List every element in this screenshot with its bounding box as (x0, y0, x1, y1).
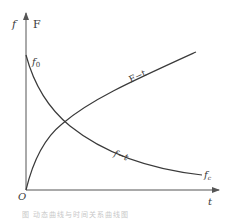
fc-label: fc (203, 169, 212, 181)
curve-F-t (26, 52, 196, 190)
origin-label: O (18, 191, 26, 202)
x-axis-label-t: t (208, 196, 213, 207)
curve-F-t-label: F−t (127, 68, 147, 85)
chart: f F f0 fc O t F−t f−t (0, 0, 226, 219)
f0-label: f0 (31, 56, 40, 69)
curve-f-t-label: f−t (112, 148, 130, 163)
figure-caption: 图 动态曲线与时间关系曲线图 (22, 209, 222, 219)
y-axis-label-F: F (33, 18, 41, 31)
y-axis-label-f: f (11, 18, 18, 31)
